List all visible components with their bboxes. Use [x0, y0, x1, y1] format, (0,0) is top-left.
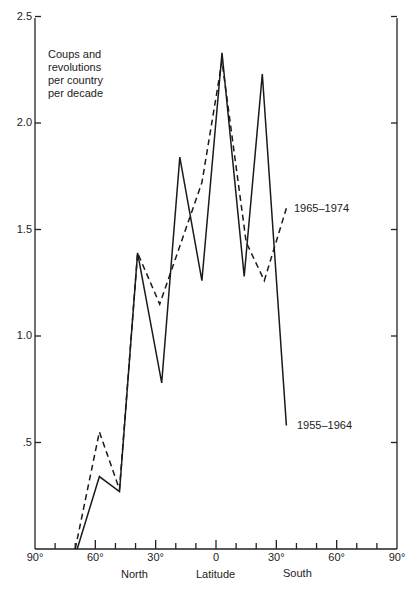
x-tick-label: 30° [256, 551, 296, 563]
x-axis-label: Latitude [196, 568, 235, 581]
x-tick-label: 60° [317, 551, 357, 563]
x-tick-label: 90° [377, 551, 417, 563]
legend-label-1955-1964: 1955–1964 [297, 419, 352, 432]
y-tick-label: 2.5 [0, 10, 32, 22]
x-label-north: North [121, 568, 148, 581]
y-tick-label: 2.0 [0, 116, 32, 128]
x-label-south: South [283, 567, 312, 580]
title-line: revolutions [48, 61, 138, 74]
series-1955-1964-line [77, 53, 286, 549]
x-tick-label: 90° [15, 551, 55, 563]
series-1965-1974-line [75, 61, 286, 549]
x-tick-label: 60° [75, 551, 115, 563]
x-tick-label: 0 [196, 551, 236, 563]
title-line: per country [48, 74, 138, 87]
x-tick-label: 30° [136, 551, 176, 563]
title-line: per decade [48, 87, 138, 100]
legend-label-1965-1974: 1965–1974 [294, 202, 349, 215]
chart-title: Coups and revolutions per country per de… [48, 48, 138, 100]
y-tick-label: 1.5 [0, 223, 32, 235]
y-tick-label: 1.0 [0, 329, 32, 341]
y-tick-label: .5 [0, 436, 32, 448]
title-line: Coups and [48, 48, 138, 61]
